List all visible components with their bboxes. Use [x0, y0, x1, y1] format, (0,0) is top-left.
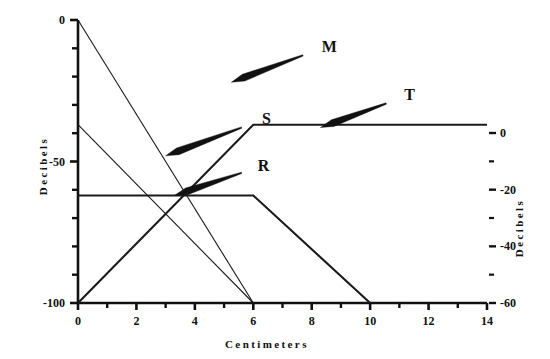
x-axis-title: Centimeters	[225, 338, 309, 350]
x-axis-tick-label: 0	[75, 314, 81, 329]
y-axis-left-tick-label: 0	[59, 13, 65, 28]
annotation-arrow-S	[166, 127, 242, 156]
x-axis-tick-label: 4	[192, 314, 198, 329]
y-axis-left-title: Decibels	[37, 111, 49, 221]
annotation-arrow-M	[231, 55, 303, 83]
series-label-R: R	[258, 157, 270, 175]
series-line-R	[78, 195, 370, 303]
plot-canvas	[0, 0, 550, 359]
chart-figure: Decibels Decibels Centimeters 0-50-1000-…	[0, 0, 550, 359]
series-line-T	[78, 125, 487, 303]
x-axis-tick-label: 12	[423, 314, 435, 329]
y-axis-right-tick-label: -20	[500, 182, 516, 197]
y-axis-right-tick-label: 0	[500, 126, 506, 141]
series-line-M	[78, 20, 253, 303]
y-axis-left-tick-label: -50	[49, 154, 65, 169]
x-axis-tick-label: 14	[481, 314, 493, 329]
series-label-M: M	[322, 38, 337, 56]
series-label-S: S	[262, 110, 271, 128]
annotation-arrow-R	[174, 172, 241, 195]
x-axis-tick-label: 10	[364, 314, 376, 329]
x-axis-tick-label: 6	[250, 314, 256, 329]
y-axis-right-tick-label: -60	[500, 296, 516, 311]
y-axis-left-tick-label: -100	[43, 296, 65, 311]
x-axis-tick-label: 2	[133, 314, 139, 329]
x-axis-tick-label: 8	[309, 314, 315, 329]
y-axis-right-tick-label: -40	[500, 239, 516, 254]
series-label-T: T	[404, 86, 415, 104]
